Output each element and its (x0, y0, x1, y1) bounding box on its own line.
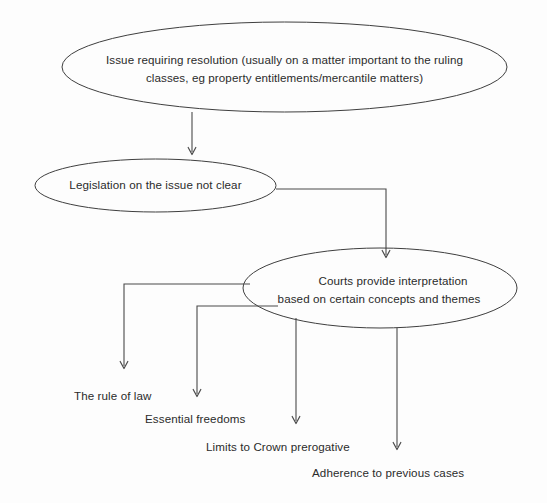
diagram-canvas: Issue requiring resolution (usually on a… (0, 0, 547, 503)
node-courts-line-1: Courts provide interpretation (318, 274, 467, 287)
connector-courts-to-rule-of-law (120, 284, 250, 369)
node-courts-ellipse (243, 248, 517, 328)
connector-legislation-to-courts-line (276, 189, 386, 255)
node-issue: Issue requiring resolution (usually on a… (62, 22, 507, 112)
leaf-label-rule-of-law: The rule of law (74, 389, 152, 402)
connector-courts-to-previous-cases (393, 328, 401, 450)
connector-issue-to-legislation (188, 112, 196, 155)
node-issue-ellipse (62, 22, 507, 112)
node-legislation: Legislation on the issue not clear (35, 159, 276, 212)
connector-legislation-to-courts (276, 189, 390, 258)
node-issue-line-2: classes, eg property entitlements/mercan… (146, 71, 423, 84)
node-legislation-line-1: Legislation on the issue not clear (69, 178, 241, 191)
node-courts-line-2: based on certain concepts and themes (278, 292, 481, 305)
connector-courts-to-essential-freedoms (193, 306, 278, 397)
leaf-label-crown-prerogative: Limits to Crown prerogative (206, 440, 350, 453)
leaf-label-essential-freedoms: Essential freedoms (145, 412, 245, 425)
connector-courts-to-crown-prerogative (292, 318, 300, 424)
connector-courts-to-essential-freedoms-line (197, 306, 278, 394)
node-issue-line-1: Issue requiring resolution (usually on a… (106, 53, 463, 66)
node-courts: Courts provide interpretation based on c… (243, 248, 517, 328)
leaf-label-previous-cases: Adherence to previous cases (312, 466, 464, 479)
connector-courts-to-rule-of-law-line (124, 284, 250, 366)
flowchart-diagram: Issue requiring resolution (usually on a… (0, 0, 547, 503)
